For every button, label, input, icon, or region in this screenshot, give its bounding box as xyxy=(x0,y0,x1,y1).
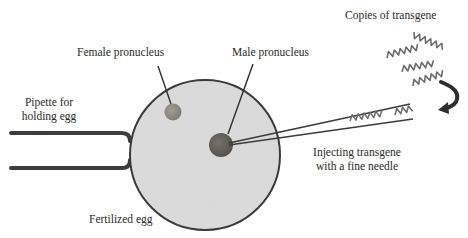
fertilized-egg xyxy=(130,80,280,230)
microinjection-diagram: Copies of transgene Female pronucleus Ma… xyxy=(0,0,468,238)
fertilized-egg-label: Fertilized egg xyxy=(89,212,153,226)
injecting-label: Injecting transgene with a fine needle xyxy=(306,145,408,173)
female-pronucleus xyxy=(165,104,182,121)
holding-pipette xyxy=(11,133,130,168)
male-pronucleus-label: Male pronucleus xyxy=(232,45,309,59)
curved-arrow-icon xyxy=(438,82,457,114)
pipette-label-line2: holding egg xyxy=(10,109,88,123)
female-pronucleus-label: Female pronucleus xyxy=(77,45,164,59)
injecting-label-line1: Injecting transgene xyxy=(306,145,408,159)
injecting-label-line2: with a fine needle xyxy=(306,159,408,173)
pipette-label-line1: Pipette for xyxy=(10,95,88,109)
copies-of-transgene-label: Copies of transgene xyxy=(345,8,436,22)
transgene-copies xyxy=(386,32,445,86)
transgene-in-needle xyxy=(349,105,412,121)
pipette-label: Pipette for holding egg xyxy=(10,95,88,123)
